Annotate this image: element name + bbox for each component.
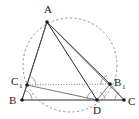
geometry-canvas: ABCDC1B1 (0, 0, 139, 119)
vertex-dot-B1 (108, 82, 112, 86)
geometry-figure: ABCDC1B1 (0, 0, 139, 119)
vertex-label-sub-C1: 1 (19, 82, 23, 90)
vertex-dot-layer (20, 20, 126, 102)
vertex-dot-C (122, 98, 126, 102)
vertex-label-B: B (9, 94, 16, 106)
vertex-label-C1: C (11, 75, 18, 87)
segment-B-C1 (22, 85, 27, 100)
vertex-label-C: C (128, 95, 135, 107)
segment-A-C (47, 22, 124, 100)
vertex-label-D: D (93, 104, 101, 116)
vertex-dot-B (20, 98, 24, 102)
vertex-dot-D (95, 98, 99, 102)
circumcircle (23, 18, 117, 112)
segment-layer (22, 22, 124, 100)
vertex-label-B1: B (114, 76, 121, 88)
arc-at-B (25, 91, 32, 100)
vertex-dot-C1 (25, 83, 29, 87)
vertex-label-A: A (44, 3, 52, 15)
arc-at-C1 (29, 76, 36, 85)
segment-C1-D (27, 85, 97, 100)
circumcircle-layer (23, 18, 117, 112)
vertex-dot-A (45, 20, 49, 24)
segment-C1-B1 (27, 84, 110, 85)
vertex-label-layer: ABCDC1B1 (9, 3, 135, 116)
segment-A-D (47, 22, 97, 100)
vertex-label-sub-B1: 1 (122, 83, 126, 91)
